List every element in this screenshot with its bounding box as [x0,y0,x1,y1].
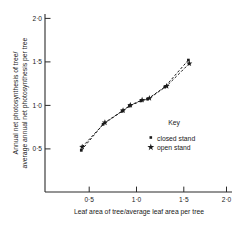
x-axis-title: Leaf area of tree/average leaf area per … [74,208,204,216]
chart-legend: Key closed stand open stand [147,119,195,152]
square-marker [150,136,153,139]
x-tick-label-2-0: 2·0 [222,196,232,203]
legend-title: Key [168,119,180,127]
y-tick-label-1-0: 1·0 [32,102,42,109]
chart-figure: 2·0 1·5 1·0 0·5 0·5 1·0 1·5 2·0 Leaf are… [0,0,240,229]
chart-plot-area: 2·0 1·5 1·0 0·5 0·5 1·0 1·5 2·0 Leaf are… [0,0,240,229]
legend-label-closed-stand: closed stand [157,135,195,142]
y-tick-label-1-5: 1·5 [32,58,42,65]
x-tick-label-1-5: 1·5 [179,196,189,203]
legend-label-open-stand: open stand [157,144,191,152]
y-axis-ticks [45,18,51,149]
y-tick-label-0-5: 0·5 [32,145,42,152]
y-axis-title-line2: average annual net photosynthesis per tr… [21,37,29,168]
x-tick-label-1-0: 1·0 [132,196,142,203]
x-tick-label-0-5: 0·5 [84,196,94,203]
x-axis-ticks [89,187,226,192]
y-tick-label-2-0: 2·0 [32,15,42,22]
y-axis-title-line1: Annual net photosynthesis of tree/ [12,52,20,155]
star-marker [147,144,154,151]
